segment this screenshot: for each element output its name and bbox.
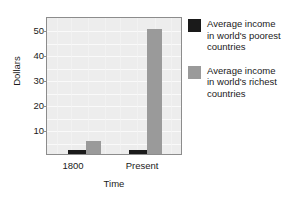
y-axis-ticks: 50 40 30 20 10	[18, 0, 44, 199]
legend-entry-poorest: Average income in world's poorest countr…	[188, 18, 304, 53]
legend-label-poorest: Average income in world's poorest countr…	[207, 18, 301, 53]
bar-1800-poorest	[68, 150, 86, 154]
legend-swatch-poorest-icon	[188, 19, 201, 32]
y-tick-label-20: 20	[20, 101, 44, 111]
plot-texture	[105, 18, 106, 154]
y-tick-label-10: 10	[20, 126, 44, 136]
bar-chart-figure: Dollars 50 40 30 20 10	[0, 0, 304, 199]
legend-label-richest-line2: in world's richest	[207, 76, 301, 88]
legend-label-poorest-line1: Average income	[207, 18, 301, 30]
legend-label-richest-line3: countries	[207, 88, 301, 100]
bar-present-poorest	[129, 150, 147, 154]
plot-texture	[171, 18, 172, 154]
plot-texture	[88, 18, 89, 154]
legend-label-poorest-line3: countries	[207, 41, 301, 53]
legend-entry-richest: Average income in world's richest countr…	[188, 65, 304, 100]
bar-1800-richest	[86, 141, 101, 154]
plot-area	[46, 17, 182, 155]
legend-label-richest-line1: Average income	[207, 65, 301, 77]
y-tick-label-40: 40	[20, 51, 44, 61]
x-axis-title: Time	[46, 178, 182, 189]
y-tick-label-50: 50	[20, 26, 44, 36]
x-tick-label-present: Present	[112, 160, 172, 171]
y-tick-label-30: 30	[20, 76, 44, 86]
plot-texture	[120, 18, 121, 154]
plot-texture	[71, 18, 72, 154]
legend-label-richest: Average income in world's richest countr…	[207, 65, 301, 100]
bar-present-richest	[147, 29, 162, 154]
plot-texture	[57, 18, 58, 154]
plot-texture	[137, 18, 138, 154]
x-tick-label-1800: 1800	[48, 160, 98, 171]
legend-swatch-richest-icon	[188, 66, 201, 79]
legend-label-poorest-line2: in world's poorest	[207, 30, 301, 42]
chart-legend: Average income in world's poorest countr…	[188, 18, 304, 111]
